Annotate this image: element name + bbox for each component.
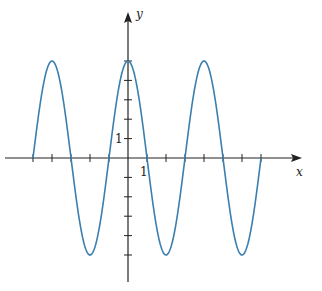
function-plot: x y 1 1 (0, 0, 322, 291)
x-axis-label: x (296, 165, 303, 179)
x-unit-label: 1 (140, 165, 148, 179)
axes (5, 12, 302, 282)
y-axis-label: y (135, 7, 143, 21)
y-unit-label: 1 (115, 132, 123, 146)
